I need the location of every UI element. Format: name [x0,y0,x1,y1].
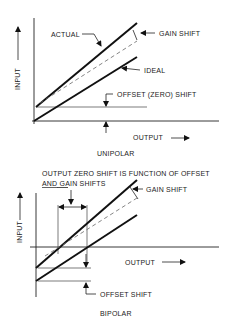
bipolar-title: BIPOLAR [100,310,132,317]
bipolar-output-label: OUTPUT [125,259,155,266]
unipolar-ideal-arrow-icon [122,68,140,70]
unipolar-ideal-label: IDEAL [144,67,165,74]
unipolar-output-label: OUTPUT [133,134,163,141]
unipolar-title: UNIPOLAR [97,150,134,157]
unipolar-actual-label: ACTUAL [51,31,80,38]
unipolar-gain-shift-label: GAIN SHIFT [159,30,201,37]
unipolar-actual-leader [82,34,101,46]
unipolar-diagram: INPUT OUTPUT ACTUAL GAIN SHIFT IDEAL OFF… [14,18,219,157]
unipolar-offset-label: OFFSET (ZERO) SHIFT [117,91,197,99]
diagram-canvas: INPUT OUTPUT ACTUAL GAIN SHIFT IDEAL OFF… [0,0,237,329]
bipolar-note-line2: AND GAIN SHIFTS [42,180,106,187]
unipolar-input-label: INPUT [14,67,21,90]
bipolar-gain-shift-label: GAIN SHIFT [146,186,188,193]
unipolar-offset-arrow-top-icon [106,94,113,106]
bipolar-note-line1: OUTPUT ZERO SHIFT IS FUNCTION OF OFFSET [42,170,210,177]
bipolar-offset-label: OFFSET SHIFT [100,291,153,298]
bipolar-diagram: OUTPUT ZERO SHIFT IS FUNCTION OF OFFSET … [16,170,219,317]
bipolar-offset-arrow-bottom-icon [86,283,96,294]
bipolar-input-label: INPUT [16,220,23,243]
unipolar-gain-shift-bracket [133,30,137,40]
